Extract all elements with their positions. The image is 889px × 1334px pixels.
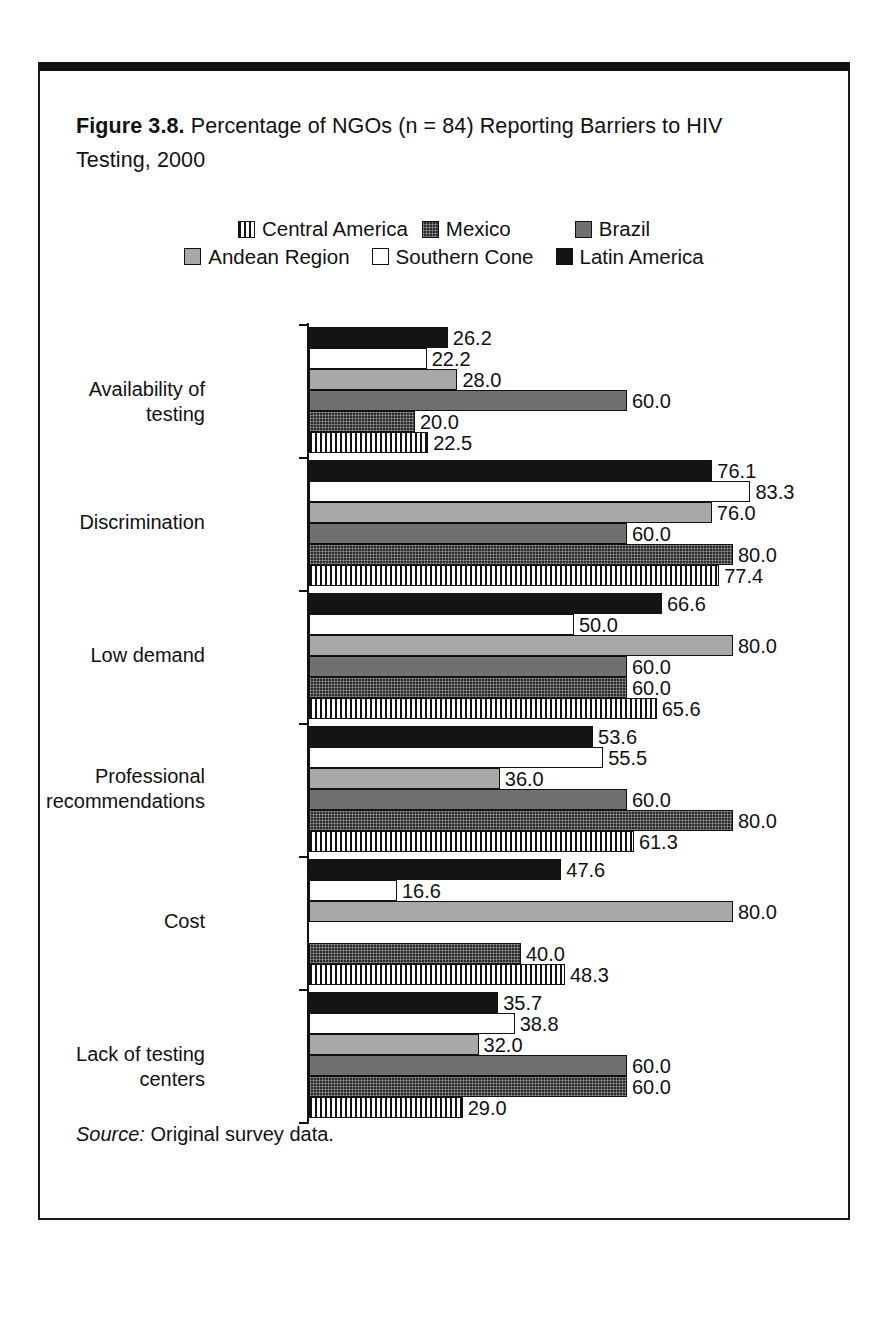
bar-row: 76.0 xyxy=(309,502,889,523)
bar-value-label: 76.1 xyxy=(712,459,756,482)
bar-value-label: 55.5 xyxy=(603,746,647,769)
bar-latin-america[interactable] xyxy=(309,460,712,481)
bar-value-label: 60.0 xyxy=(627,389,671,412)
bar-group-discrimination: Discrimination76.183.376.060.080.077.4 xyxy=(40,460,848,586)
bar-row: 22.2 xyxy=(309,348,889,369)
black-swatch-icon xyxy=(556,248,573,265)
bar-value-label: 22.5 xyxy=(428,431,472,454)
bar-latin-america[interactable] xyxy=(309,992,498,1013)
bar-central-america[interactable] xyxy=(309,698,657,719)
bar-central-america[interactable] xyxy=(309,831,634,852)
bar-row: 61.3 xyxy=(309,831,889,852)
bar-group-professional-recommendations: Professional recommendations53.655.536.0… xyxy=(40,726,848,852)
category-label-low-demand: Low demand xyxy=(90,643,205,668)
bar-brazil[interactable] xyxy=(309,789,627,810)
bar-andean-region[interactable] xyxy=(309,635,733,656)
bar-value-label: 61.3 xyxy=(634,830,678,853)
bar-row: 65.6 xyxy=(309,698,889,719)
legend-label: Andean Region xyxy=(208,247,349,268)
bar-southern-cone[interactable] xyxy=(309,747,603,768)
legend-item-mexico[interactable]: Mexico xyxy=(422,219,511,240)
bar-value-label: 40.0 xyxy=(521,942,565,965)
bar-mexico[interactable] xyxy=(309,677,627,698)
bar-southern-cone[interactable] xyxy=(309,880,397,901)
figure-frame: Figure 3.8. Percentage of NGOs (n = 84) … xyxy=(38,62,850,1220)
vertical-stripe-swatch-icon xyxy=(238,221,255,238)
axis-tick xyxy=(299,856,309,858)
bar-row: 76.1 xyxy=(309,460,889,481)
bar-andean-region[interactable] xyxy=(309,768,500,789)
bar-andean-region[interactable] xyxy=(309,901,733,922)
bar-latin-america[interactable] xyxy=(309,726,593,747)
bar-row: 38.8 xyxy=(309,1013,889,1034)
bar-row: 48.3 xyxy=(309,964,889,985)
bar-andean-region[interactable] xyxy=(309,369,457,390)
bar-southern-cone[interactable] xyxy=(309,1013,515,1034)
bar-value-label: 60.0 xyxy=(627,788,671,811)
bar-central-america[interactable] xyxy=(309,565,719,586)
medium-gray-swatch-icon xyxy=(575,221,592,238)
figure-caption: Figure 3.8. Percentage of NGOs (n = 84) … xyxy=(76,109,776,177)
bar-value-label: 66.6 xyxy=(662,592,706,615)
bar-central-america[interactable] xyxy=(309,1097,463,1118)
bar-southern-cone[interactable] xyxy=(309,348,427,369)
bar-value-label: 53.6 xyxy=(593,725,637,748)
legend-item-andean-region[interactable]: Andean Region xyxy=(184,247,349,268)
category-label-discrimination: Discrimination xyxy=(79,510,205,535)
bar-mexico[interactable] xyxy=(309,1076,627,1097)
bar-value-label: 60.0 xyxy=(627,522,671,545)
bar-row: 35.7 xyxy=(309,992,889,1013)
bar-value-label: 60.0 xyxy=(627,676,671,699)
bar-mexico[interactable] xyxy=(309,810,733,831)
bar-brazil[interactable] xyxy=(309,390,627,411)
bar-row: 50.0 xyxy=(309,614,889,635)
legend-item-southern-cone[interactable]: Southern Cone xyxy=(372,247,534,268)
bar-southern-cone[interactable] xyxy=(309,614,574,635)
bar-row: 36.0 xyxy=(309,768,889,789)
bar-andean-region[interactable] xyxy=(309,1034,479,1055)
bar-central-america[interactable] xyxy=(309,432,428,453)
bar-row: 53.6 xyxy=(309,726,889,747)
bar-row: 22.5 xyxy=(309,432,889,453)
bar-value-label: 65.6 xyxy=(657,697,701,720)
bar-mexico[interactable] xyxy=(309,544,733,565)
bar-value-label: 32.0 xyxy=(479,1033,523,1056)
category-label-availability-of-testing: Availability of testing xyxy=(40,377,205,427)
bar-value-label: 60.0 xyxy=(627,655,671,678)
bar-brazil[interactable] xyxy=(309,523,627,544)
bar-central-america[interactable] xyxy=(309,964,565,985)
bar-value-label: 50.0 xyxy=(574,613,618,636)
bar-row: 26.2 xyxy=(309,327,889,348)
bar-latin-america[interactable] xyxy=(309,593,662,614)
bar-latin-america[interactable] xyxy=(309,327,448,348)
bar-row: 66.6 xyxy=(309,593,889,614)
legend-item-central-america[interactable]: Central America xyxy=(238,219,408,240)
bar-andean-region[interactable] xyxy=(309,502,712,523)
bar-row xyxy=(309,922,889,943)
bar-group-lack-of-testing-centers: Lack of testing centers35.738.832.060.06… xyxy=(40,992,848,1118)
bar-mexico[interactable] xyxy=(309,943,521,964)
legend-row-2: Andean Region Southern Cone Latin Americ… xyxy=(40,247,848,268)
bar-row: 28.0 xyxy=(309,369,889,390)
bar-brazil[interactable] xyxy=(309,1055,627,1076)
bar-row: 40.0 xyxy=(309,943,889,964)
legend-item-brazil[interactable]: Brazil xyxy=(575,219,650,240)
bar-southern-cone[interactable] xyxy=(309,481,750,502)
bar-row: 80.0 xyxy=(309,635,889,656)
bar-row: 47.6 xyxy=(309,859,889,880)
legend-item-latin-america[interactable]: Latin America xyxy=(556,247,704,268)
figure-source: Source: Original survey data. xyxy=(76,1123,334,1146)
bar-value-label: 35.7 xyxy=(498,991,542,1014)
category-label-cost: Cost xyxy=(164,909,205,934)
bar-mexico[interactable] xyxy=(309,411,415,432)
source-label: Source: xyxy=(76,1123,145,1145)
bar-value-label: 48.3 xyxy=(565,963,609,986)
bar-value-label: 28.0 xyxy=(457,368,501,391)
bar-row: 77.4 xyxy=(309,565,889,586)
axis-tick xyxy=(299,457,309,459)
bar-value-label: 80.0 xyxy=(733,809,777,832)
bar-latin-america[interactable] xyxy=(309,859,561,880)
bar-value-label: 60.0 xyxy=(627,1054,671,1077)
bar-brazil[interactable] xyxy=(309,656,627,677)
bar-row: 60.0 xyxy=(309,789,889,810)
